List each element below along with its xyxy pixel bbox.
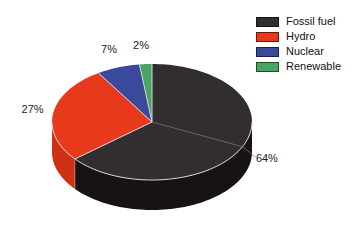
legend-swatch-icon xyxy=(256,17,279,27)
legend-label: Fossil fuel xyxy=(286,16,336,27)
legend-label: Hydro xyxy=(286,31,315,42)
legend-item-hydro: Hydro xyxy=(256,29,341,44)
legend-swatch-icon xyxy=(256,62,279,72)
pct-label-renewable: 2% xyxy=(133,39,149,51)
legend-label: Renewable xyxy=(286,61,341,72)
pct-label-fossil-fuel: 64% xyxy=(256,152,278,164)
legend-item-renewable: Renewable xyxy=(256,59,341,74)
legend: Fossil fuelHydroNuclearRenewable xyxy=(256,14,341,74)
legend-label: Nuclear xyxy=(286,46,324,57)
pct-label-nuclear: 7% xyxy=(101,43,117,55)
chart-container: 64%27%7%2% Fossil fuelHydroNuclearRenewa… xyxy=(0,0,356,227)
pct-label-hydro: 27% xyxy=(22,103,44,115)
legend-item-fossil-fuel: Fossil fuel xyxy=(256,14,341,29)
legend-swatch-icon xyxy=(256,47,279,57)
legend-swatch-icon xyxy=(256,32,279,42)
legend-item-nuclear: Nuclear xyxy=(256,44,341,59)
